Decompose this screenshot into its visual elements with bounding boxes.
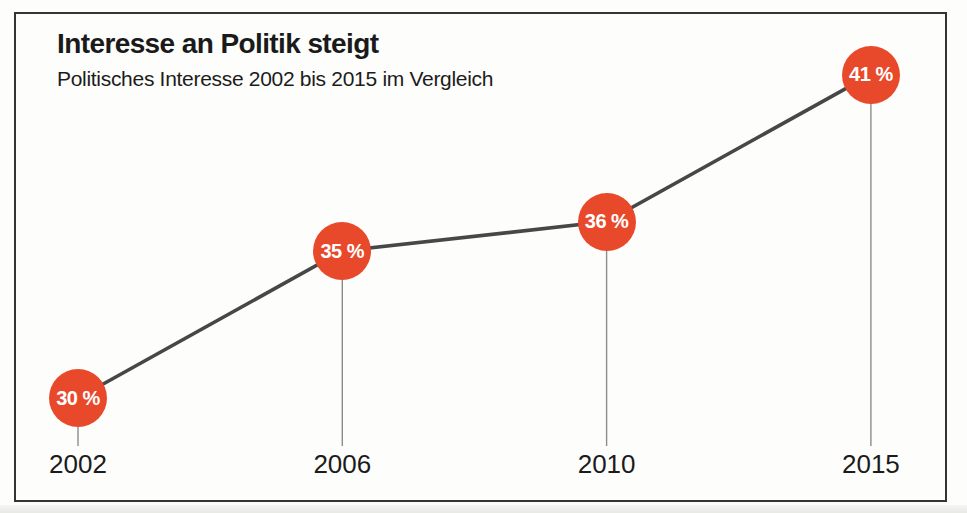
chart-figure: Interesse an Politik steigt Politisches … (0, 0, 967, 513)
year-label-2002: 2002 (23, 449, 133, 480)
trend-line (78, 75, 871, 398)
data-point-value: 30 % (56, 387, 100, 410)
year-label-2015: 2015 (816, 449, 926, 480)
data-point-value: 35 % (321, 240, 365, 263)
data-point-2015: 41 % (842, 46, 900, 104)
data-point-value: 36 % (585, 210, 629, 233)
year-label-2006: 2006 (287, 449, 397, 480)
data-point-2010: 36 % (578, 193, 636, 251)
data-point-value: 41 % (849, 63, 893, 86)
year-label-2010: 2010 (552, 449, 662, 480)
plot-area (0, 0, 967, 513)
paper-edge-shadow (0, 505, 967, 513)
data-point-2002: 30 % (49, 369, 107, 427)
data-point-2006: 35 % (313, 222, 371, 280)
